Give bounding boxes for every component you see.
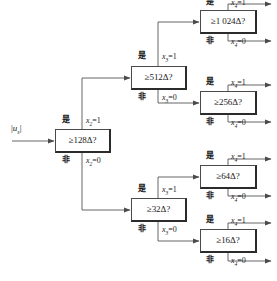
decision-node-128-yes-label: 是 xyxy=(62,116,70,124)
decision-node-128-no-label: 非 xyxy=(62,156,70,164)
decision-node-512-no-label: 非 xyxy=(138,93,146,101)
decision-node-128-label: ≥128Δ? xyxy=(69,136,97,146)
input-signal-label: |us| xyxy=(11,124,21,135)
decision-node-64[interactable]: ≥64Δ? xyxy=(200,165,257,189)
decision-node-256-label: ≥256Δ? xyxy=(214,98,242,108)
decision-node-64-no-value: x4=0 xyxy=(231,193,246,203)
decision-node-32-no-label: 非 xyxy=(138,225,146,233)
decision-node-256-yes-value: x4=1 xyxy=(231,79,246,89)
decision-node-64-yes-label: 是 xyxy=(206,152,214,160)
decision-node-16-no-value: x4=0 xyxy=(231,257,246,267)
decision-node-16-yes-value: x4=1 xyxy=(231,217,246,227)
decision-node-512-no-value: x3=0 xyxy=(162,94,177,104)
decision-node-32[interactable]: ≥32Δ? xyxy=(131,198,187,222)
decision-node-1024[interactable]: ≥1 024Δ? xyxy=(200,10,257,34)
decision-node-64-no-label: 非 xyxy=(206,192,214,200)
decision-node-32-yes-value: x3=1 xyxy=(162,186,177,196)
decision-node-1024-no-value: x4=0 xyxy=(231,38,246,48)
decision-node-32-yes-label: 是 xyxy=(138,185,146,193)
decision-node-512-yes-label: 是 xyxy=(138,52,146,60)
decision-node-128-yes-value: x2=1 xyxy=(86,117,101,127)
decision-node-256-no-value: x4=0 xyxy=(231,119,246,129)
decision-node-1024-yes-label: 是 xyxy=(206,0,214,6)
decision-node-256-yes-label: 是 xyxy=(206,78,214,86)
decision-tree-figure: |us| ≥128Δ? 是 x2=1 非 x2=0 ≥512Δ? 是 x3=1 … xyxy=(0,0,277,281)
decision-node-16[interactable]: ≥16Δ? xyxy=(200,229,257,253)
decision-node-16-yes-label: 是 xyxy=(206,216,214,224)
decision-node-64-label: ≥64Δ? xyxy=(216,172,239,182)
decision-node-1024-label: ≥1 024Δ? xyxy=(211,17,245,27)
decision-node-32-label: ≥32Δ? xyxy=(147,205,170,215)
decision-node-1024-yes-value: x4=1 xyxy=(231,0,246,9)
decision-node-512-label: ≥512Δ? xyxy=(145,73,173,83)
decision-node-1024-no-label: 非 xyxy=(206,37,214,45)
decision-node-16-no-label: 非 xyxy=(206,256,214,264)
decision-node-64-yes-value: x4=1 xyxy=(231,153,246,163)
decision-node-512[interactable]: ≥512Δ? xyxy=(131,66,187,90)
decision-node-16-label: ≥16Δ? xyxy=(216,236,239,246)
decision-node-128-no-value: x2=0 xyxy=(86,157,101,167)
decision-node-256-no-label: 非 xyxy=(206,118,214,126)
decision-node-32-no-value: x3=0 xyxy=(162,226,177,236)
decision-node-256[interactable]: ≥256Δ? xyxy=(200,91,257,115)
decision-node-512-yes-value: x3=1 xyxy=(162,53,177,63)
decision-node-128[interactable]: ≥128Δ? xyxy=(55,129,111,153)
